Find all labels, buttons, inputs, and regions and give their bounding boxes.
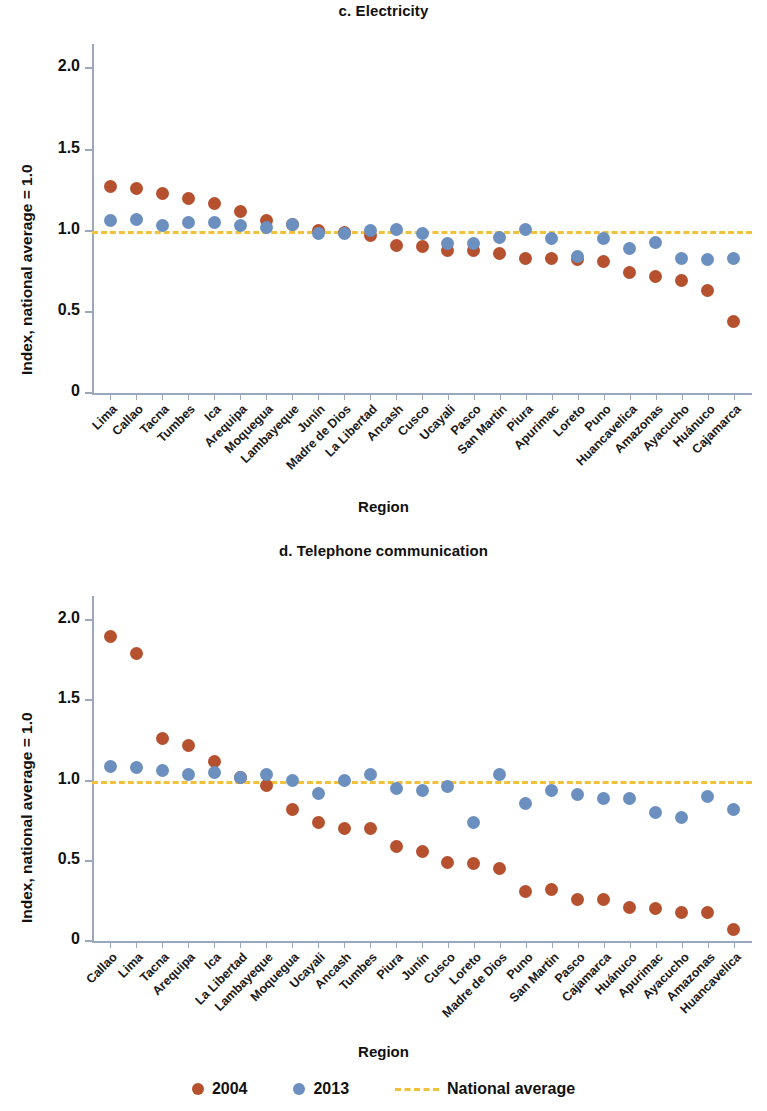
data-point-2004 [104, 180, 117, 193]
y-axis-tick [85, 780, 92, 782]
y-axis-tick [85, 940, 92, 942]
data-point-2004 [649, 902, 662, 915]
y-axis-title-c: Index, national average = 1.0 [18, 164, 36, 375]
x-axis-tick [292, 943, 293, 948]
data-point-2004 [571, 893, 584, 906]
data-point-2013 [416, 227, 429, 240]
y-axis-tick [85, 230, 92, 232]
data-point-2013 [571, 788, 584, 801]
x-axis-tick [474, 943, 475, 948]
chart-panel-telephone: d. Telephone communication Index, nation… [0, 540, 767, 1070]
y-axis-tick-label: 1.5 [30, 139, 80, 157]
y-axis-tick [85, 149, 92, 151]
x-axis-tick [656, 395, 657, 400]
x-axis-tick [526, 943, 527, 948]
x-axis-tick [292, 395, 293, 400]
data-point-2004 [649, 270, 662, 283]
x-axis-tick [604, 395, 605, 400]
data-point-2013 [467, 816, 480, 829]
y-axis-tick [85, 311, 92, 313]
data-point-2013 [208, 766, 221, 779]
y-axis-tick-label: 0 [30, 930, 80, 948]
data-point-2013 [182, 768, 195, 781]
data-point-2013 [727, 803, 740, 816]
data-point-2004 [104, 630, 117, 643]
y-axis-tick-label: 0 [30, 382, 80, 400]
x-axis-tick [448, 395, 449, 400]
data-point-2013 [649, 236, 662, 249]
data-point-2004 [623, 266, 636, 279]
data-point-2004 [597, 893, 610, 906]
data-point-2013 [182, 216, 195, 229]
data-point-2004 [701, 906, 714, 919]
data-point-2013 [390, 223, 403, 236]
data-point-2004 [597, 255, 610, 268]
x-axis-tick [240, 943, 241, 948]
y-axis-tick-label: 0.5 [30, 301, 80, 319]
figure-legend: 2004 2013 National average [0, 1080, 767, 1098]
x-axis-tick [110, 943, 111, 948]
data-point-2013 [156, 764, 169, 777]
data-point-2004 [364, 822, 377, 835]
y-axis-line [92, 596, 94, 941]
data-point-2013 [286, 774, 299, 787]
data-point-2013 [597, 792, 610, 805]
x-axis-tick [266, 943, 267, 948]
data-point-2013 [649, 806, 662, 819]
x-axis-tick [682, 943, 683, 948]
data-point-2013 [390, 782, 403, 795]
data-point-2004 [493, 862, 506, 875]
x-axis-tick [214, 395, 215, 400]
x-axis-tick [162, 395, 163, 400]
data-point-2004 [156, 187, 169, 200]
x-axis-tick [734, 943, 735, 948]
data-point-2013 [545, 232, 558, 245]
chart-panel-electricity: c. Electricity Index, national average =… [0, 0, 767, 535]
data-point-2004 [390, 239, 403, 252]
x-axis-tick [656, 943, 657, 948]
x-axis-tick [526, 395, 527, 400]
data-point-2013 [260, 768, 273, 781]
data-point-2004 [467, 857, 480, 870]
data-point-2004 [338, 822, 351, 835]
data-point-2013 [104, 760, 117, 773]
legend-label-2004: 2004 [212, 1080, 248, 1098]
x-axis-tick [370, 943, 371, 948]
data-point-2004 [416, 240, 429, 253]
data-point-2013 [364, 768, 377, 781]
data-point-2013 [441, 780, 454, 793]
data-point-2013 [519, 223, 532, 236]
x-axis-title-d: Region [0, 1043, 767, 1060]
x-axis-tick [500, 943, 501, 948]
x-axis-tick [214, 943, 215, 948]
legend-swatch-2013 [293, 1083, 305, 1095]
x-axis-tick [552, 395, 553, 400]
x-axis-tick [578, 395, 579, 400]
plot-area-telephone: 00.51.01.52.0CallaoLimaTacnaArequipaIcaL… [92, 596, 752, 941]
x-axis-tick [370, 395, 371, 400]
y-axis-tick [85, 67, 92, 69]
y-axis-title-d: Index, national average = 1.0 [18, 712, 36, 923]
x-axis-tick [396, 943, 397, 948]
data-point-2004 [260, 779, 273, 792]
data-point-2004 [545, 252, 558, 265]
y-axis-tick-label: 0.5 [30, 850, 80, 868]
data-point-2013 [675, 811, 688, 824]
data-point-2013 [701, 790, 714, 803]
data-point-2004 [493, 247, 506, 260]
data-point-2013 [312, 787, 325, 800]
data-point-2004 [416, 845, 429, 858]
legend-swatch-national-average [395, 1088, 439, 1091]
data-point-2013 [493, 768, 506, 781]
plot-area-electricity: 00.51.01.52.0LimaCallaoTacnaTumbesIcaAre… [92, 44, 752, 393]
data-point-2004 [545, 883, 558, 896]
x-axis-tick [318, 395, 319, 400]
x-axis-tick [266, 395, 267, 400]
y-axis-tick-label: 1.0 [30, 220, 80, 238]
legend-item-2004: 2004 [192, 1080, 248, 1098]
data-point-2013 [597, 232, 610, 245]
y-axis-tick [85, 619, 92, 621]
data-point-2004 [519, 885, 532, 898]
data-point-2013 [623, 792, 636, 805]
x-axis-tick [552, 943, 553, 948]
